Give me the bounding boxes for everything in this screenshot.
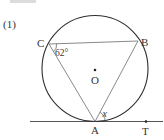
geometry-figure: (1) C B O A T 62° x xyxy=(0,0,164,140)
header-bar xyxy=(10,0,36,3)
center-o-dot xyxy=(94,69,97,72)
label-a: A xyxy=(91,124,99,136)
label-b: B xyxy=(141,36,148,48)
problem-number: (1) xyxy=(3,18,16,31)
chord-ba xyxy=(95,41,138,122)
point-t-dot xyxy=(145,120,148,123)
label-t: T xyxy=(142,125,149,137)
angle-x-label: x xyxy=(102,108,108,119)
circle-o xyxy=(42,16,148,122)
label-o: O xyxy=(91,74,99,86)
chord-cb xyxy=(49,41,138,44)
label-c: C xyxy=(37,37,44,49)
angle-c-value: 62° xyxy=(55,48,69,58)
